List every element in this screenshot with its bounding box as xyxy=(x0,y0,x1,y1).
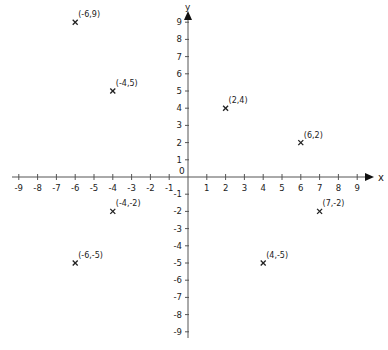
data-point: (6,2) xyxy=(298,131,322,146)
x-tick-label: -6 xyxy=(71,183,79,193)
x-tick-label: 7 xyxy=(317,183,322,193)
y-tick-label: 4 xyxy=(177,103,182,113)
y-tick-label: 2 xyxy=(177,138,182,148)
x-tick-label: 2 xyxy=(223,183,228,193)
data-point: (-4,5) xyxy=(110,79,137,94)
point-label: (-6,-5) xyxy=(78,251,103,260)
y-axis-label: y xyxy=(185,2,191,12)
data-point: (4,-5) xyxy=(261,251,288,266)
point-label: (7,-2) xyxy=(323,199,345,208)
y-tick-label: -2 xyxy=(174,206,182,216)
y-tick-label: 7 xyxy=(177,52,182,62)
x-tick-label: -7 xyxy=(52,183,60,193)
y-axis-arrow-icon xyxy=(184,11,192,20)
x-tick-label: 6 xyxy=(298,183,303,193)
y-tick-label: -5 xyxy=(174,258,182,268)
x-tick-label: -3 xyxy=(127,183,135,193)
data-point: (-6,9) xyxy=(73,10,100,25)
x-axis-label: x xyxy=(378,172,384,183)
point-label: (2,4) xyxy=(229,96,248,105)
y-tick-label: -3 xyxy=(174,224,182,234)
y-tick-label: 8 xyxy=(177,34,182,44)
x-tick-label: 8 xyxy=(336,183,341,193)
data-point: (2,4) xyxy=(223,96,247,111)
y-tick-label: -4 xyxy=(174,241,182,251)
y-tick-label: -8 xyxy=(174,310,182,320)
x-tick-label: -2 xyxy=(146,183,154,193)
axes: xy xyxy=(12,2,384,338)
y-tick-label: -7 xyxy=(174,292,182,302)
x-tick-label: -9 xyxy=(15,183,23,193)
origin-label: 0 xyxy=(179,166,185,176)
y-tick-label: 3 xyxy=(177,120,182,130)
x-axis-arrow-icon xyxy=(365,173,374,181)
points: (-6,9)(-4,5)(2,4)(6,2)(-4,-2)(7,-2)(-6,-… xyxy=(73,10,345,265)
data-point: (-4,-2) xyxy=(110,199,140,214)
y-tick-label: -9 xyxy=(174,327,182,337)
coordinate-plane: xy 0-9-8-7-6-5-4-3-2-1123456789987654321… xyxy=(0,0,388,350)
x-tick-label: 3 xyxy=(242,183,247,193)
point-label: (-6,9) xyxy=(78,10,100,19)
y-tick-label: -1 xyxy=(174,189,182,199)
x-tick-label: 4 xyxy=(260,183,265,193)
data-point: (-6,-5) xyxy=(73,251,103,266)
y-tick-label: 5 xyxy=(177,86,182,96)
x-tick-label: 9 xyxy=(354,183,359,193)
y-tick-label: 6 xyxy=(177,69,182,79)
point-label: (4,-5) xyxy=(266,251,288,260)
x-tick-label: -1 xyxy=(165,183,173,193)
x-tick-label: -8 xyxy=(33,183,41,193)
x-tick-label: 1 xyxy=(204,183,209,193)
point-label: (-4,-2) xyxy=(116,199,141,208)
y-tick-label: 1 xyxy=(177,155,182,165)
y-tick-label: -6 xyxy=(174,275,182,285)
point-label: (-4,5) xyxy=(116,79,138,88)
x-tick-label: -4 xyxy=(109,183,117,193)
y-tick-label: 9 xyxy=(177,17,182,27)
x-tick-label: -5 xyxy=(90,183,98,193)
data-point: (7,-2) xyxy=(317,199,344,214)
point-label: (6,2) xyxy=(304,131,323,140)
x-tick-label: 5 xyxy=(279,183,284,193)
